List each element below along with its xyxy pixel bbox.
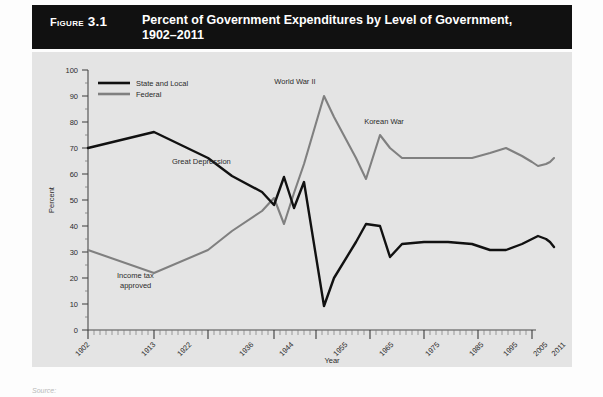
y-tick-label: 0 [74,326,78,335]
figure-title-bar: Figure 3.1 Percent of Government Expendi… [32,5,572,49]
y-tick-label: 10 [70,300,78,309]
chart-panel: 100 90 80 70 60 50 40 30 20 10 0 Percent [32,52,572,367]
figure-page: Figure 3.1 Percent of Government Expendi… [0,0,603,397]
y-tick-label: 90 [70,92,78,101]
figure-title-line-1: Percent of Government Expenditures by Le… [142,13,562,28]
figure-number: 3.1 [88,14,108,29]
y-tick-label: 60 [70,170,78,179]
y-axis-title: Percent [47,186,56,213]
annotation-income-tax-line-1: Income tax [117,271,154,280]
annotation-income-tax-line-2: approved [120,281,151,290]
source-label: Source: [32,387,56,394]
annotation-korean-war: Korean War [364,117,404,126]
figure-number-label: Figure [50,16,84,28]
legend-label-state-local: State and Local [136,79,188,88]
y-tick-label: 20 [70,274,78,283]
x-axis-title: Year [324,356,340,365]
y-tick-label: 40 [70,222,78,231]
y-tick-label: 80 [70,118,78,127]
legend-label-federal: Federal [136,90,162,99]
figure-number-group: Figure 3.1 [50,14,107,29]
page-title: Percent of Government Expenditures by Le… [142,13,562,43]
figure-title-line-2: 1902–2011 [142,28,562,43]
annotation-great-depression: Great Depression [172,157,231,166]
y-tick-label: 30 [70,248,78,257]
chart-background [32,52,572,367]
y-tick-label: 70 [70,144,78,153]
line-chart: 100 90 80 70 60 50 40 30 20 10 0 Percent [32,52,572,367]
annotation-world-war-ii: World War II [274,77,315,86]
source-note: Source: [32,386,572,395]
y-tick-label: 100 [65,66,78,75]
y-tick-label: 50 [70,196,78,205]
